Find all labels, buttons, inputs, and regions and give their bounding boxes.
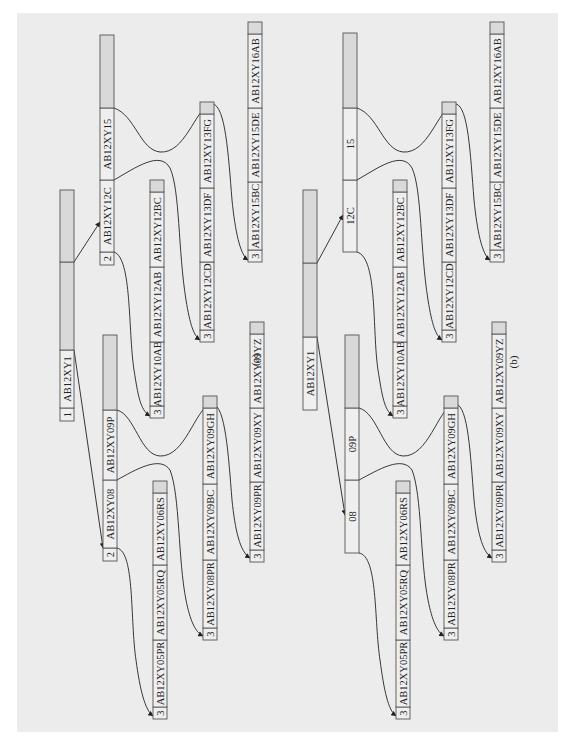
key-label: AB12XY05RQ (398, 569, 409, 635)
key-label: AB12XY08 (105, 489, 116, 540)
pointer-link (117, 404, 250, 558)
panel-caption: (b) (507, 355, 520, 368)
key-label: AB12XY05PR (155, 642, 166, 706)
key-label: AB12XY08PR (205, 562, 216, 626)
key-label: AB12XY15BC (492, 184, 503, 249)
panel-a: 1AB12XY12AB12XY12CAB12XY152AB12XY08AB12X… (60, 22, 264, 719)
key-label: AB12XY09YZ (252, 339, 263, 404)
empty-cell (396, 481, 410, 493)
key-label: AB12XY15DE (250, 113, 261, 178)
btree-diagram: 1AB12XY12AB12XY12CAB12XY152AB12XY08AB12X… (0, 0, 569, 748)
empty-cell (303, 190, 317, 263)
level-number: 3 (205, 631, 216, 636)
key-label: AB12XY09XY (494, 412, 505, 478)
key-label: AB12XY09BC (205, 490, 216, 555)
empty-cell (153, 481, 167, 493)
tree-node: 3AB12XY15BCAB12XY15DEAB12XY16AB (490, 22, 504, 262)
empty-cell (442, 102, 456, 114)
key-label: AB12XY06RS (398, 497, 409, 561)
tree-node: 12C15 (343, 33, 357, 252)
key-label: AB12XY13DF (444, 193, 455, 257)
nodes-layer: 1AB12XY12AB12XY12CAB12XY152AB12XY08AB12X… (60, 22, 506, 719)
tree-node: 3AB12XY08PRAB12XY09BCAB12XY09GH (203, 396, 217, 640)
empty-cell (248, 22, 262, 34)
key-label: AB12XY12AB (152, 272, 163, 337)
empty-cell (60, 190, 74, 262)
pointer-link (74, 350, 103, 548)
level-number: 3 (398, 710, 409, 715)
empty-cell (250, 322, 264, 334)
level-number: 2 (102, 256, 113, 261)
key-label: AB12XY06RS (155, 497, 166, 561)
key-label: AB12XY09GH (205, 413, 216, 479)
tree-node: AB12XY1 (303, 190, 317, 410)
key-label: AB12XY05RQ (155, 569, 166, 635)
key-label: AB12XY12C (102, 187, 113, 245)
empty-cell (490, 22, 504, 34)
empty-cell (393, 180, 407, 192)
key-label: 08 (347, 511, 358, 522)
panel-caption: (a) (249, 354, 262, 367)
key-label: AB12XY08PR (446, 562, 457, 626)
key-label: AB12XY12BC (152, 197, 163, 262)
key-label: AB12XY05PR (398, 642, 409, 706)
pointer-link (317, 337, 345, 515)
pointer-link (357, 104, 490, 260)
pointer-link (74, 222, 100, 262)
pointer-link (359, 404, 492, 558)
key-label: AB12XY10AB (152, 341, 163, 406)
key-label: AB12XY09GH (446, 413, 457, 479)
key-label: AB12XY1 (62, 356, 73, 402)
key-label: AB12XY12AB (395, 272, 406, 337)
level-number: 3 (202, 333, 213, 338)
tree-node: 3AB12XY15BCAB12XY15DEAB12XY16AB (248, 22, 262, 262)
tree-node: 3AB12XY10ABAB12XY12ABAB12XY12BC (150, 180, 164, 418)
key-label: AB12XY12BC (395, 197, 406, 262)
level-number: 3 (446, 631, 457, 636)
key-label: AB12XY12CD (202, 263, 213, 329)
key-label: AB12XY09BC (446, 490, 457, 555)
empty-cell (200, 102, 214, 114)
empty-cell (203, 396, 217, 408)
tree-node: 3AB12XY08PRAB12XY09BCAB12XY09GH (444, 396, 458, 640)
empty-cell (150, 180, 164, 192)
tree-node: 3AB12XY09PRAB12XY09XYAB12XY09YZ (492, 322, 506, 562)
key-label: AB12XY15DE (492, 113, 503, 178)
pointer-link (359, 553, 396, 716)
tree-node: 3AB12XY12CDAB12XY13DFAB12XY13FG (200, 102, 214, 342)
level-number: 3 (252, 553, 263, 558)
level-number: 3 (492, 253, 503, 258)
key-label: AB12XY16AB (250, 38, 261, 103)
tree-node: 3AB12XY12CDAB12XY13DFAB12XY13FG (442, 102, 456, 342)
empty-cell (444, 396, 458, 408)
level-number: 3 (250, 253, 261, 258)
empty-cell (60, 262, 74, 350)
level-number: 3 (494, 553, 505, 558)
key-label: 12C (345, 207, 356, 225)
key-label: AB12XY09XY (252, 412, 263, 478)
tree-node: 1AB12XY1 (60, 190, 74, 421)
tree-node: 3AB12XY05PRAB12XY05RQAB12XY06RS (396, 481, 410, 719)
key-label: AB12XY13FG (202, 119, 213, 184)
tree-node: 3AB12XY05PRAB12XY05RQAB12XY06RS (153, 481, 167, 719)
key-label: AB12XY10AB (395, 341, 406, 406)
panel-b: AB12XY112C150809P3AB12XY10ABAB12XY12ABAB… (303, 22, 506, 719)
key-label: AB12XY1 (305, 351, 316, 397)
empty-cell (345, 335, 359, 408)
level-number: 3 (152, 409, 163, 414)
tree-node: 0809P (345, 335, 359, 553)
pointer-link (117, 548, 153, 716)
empty-cell (303, 263, 317, 337)
key-label: 15 (345, 139, 356, 150)
key-label: AB12XY15BC (250, 184, 261, 249)
empty-cell (343, 33, 357, 108)
tree-node: 2AB12XY08AB12XY09P (103, 335, 117, 561)
key-label: AB12XY09P (105, 417, 116, 474)
level-number: 3 (444, 333, 455, 338)
links-layer (74, 104, 492, 716)
key-label: AB12XY16AB (492, 38, 503, 103)
pointer-link (317, 215, 343, 263)
tree-node: 3AB12XY10ABAB12XY12ABAB12XY12BC (393, 180, 407, 418)
level-number: 3 (155, 710, 166, 715)
empty-cell (103, 335, 117, 410)
